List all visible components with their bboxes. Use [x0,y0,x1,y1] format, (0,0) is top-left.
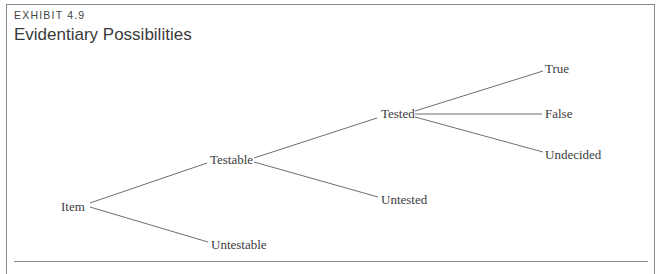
edge-tested-true [415,71,543,111]
node-tested: Tested [381,107,415,121]
node-untestable: Untestable [211,238,267,252]
node-undecided: Undecided [545,148,601,162]
edge-item-testable [90,163,207,203]
edge-tested-undecided [415,117,543,152]
edge-item-untestable [90,207,208,242]
edge-testable-tested [254,118,377,158]
edge-testable-untested [254,162,378,197]
node-testable: Testable [210,153,253,167]
node-true: True [545,62,569,76]
node-false: False [545,107,572,121]
node-untested: Untested [381,193,427,207]
bottom-rule [14,261,648,262]
node-item: Item [61,200,85,214]
